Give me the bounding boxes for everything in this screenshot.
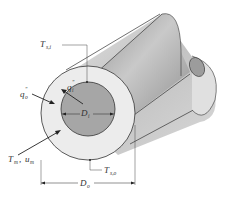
svg-text:D: D — [80, 108, 88, 118]
svg-text:s,i: s,i — [46, 44, 52, 50]
svg-text:s,o: s,o — [110, 170, 117, 176]
svg-text:o: o — [25, 94, 28, 100]
svg-text:″: ″ — [25, 86, 28, 92]
svg-text:,: , — [19, 154, 21, 164]
svg-text:D: D — [79, 178, 87, 188]
annulus-diagram: T s,i q ″ i q ″ o D i T m , u m — [0, 0, 229, 197]
label-t-so: T s,o — [89, 159, 117, 176]
mean-flow-arrow: T m , u m — [8, 130, 61, 165]
svg-text:m: m — [30, 159, 34, 165]
svg-text:m: m — [14, 159, 18, 165]
svg-text:o: o — [87, 183, 90, 189]
